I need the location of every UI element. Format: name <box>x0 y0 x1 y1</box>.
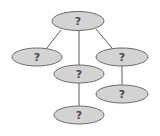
tree-node-middle-child: ? <box>54 106 104 124</box>
node-label: ? <box>75 15 81 28</box>
tree-node-root: ? <box>52 12 104 31</box>
tree-node-right-child: ? <box>96 85 148 103</box>
tree-diagram: ?????? <box>0 0 160 136</box>
node-label: ? <box>76 68 82 81</box>
nodes-group: ?????? <box>12 12 148 125</box>
edge-root-to-left <box>46 30 61 49</box>
tree-node-right: ? <box>96 48 148 66</box>
tree-node-middle: ? <box>54 65 104 83</box>
node-label: ? <box>34 51 40 64</box>
tree-node-left: ? <box>12 48 62 66</box>
node-label: ? <box>76 109 82 122</box>
node-label: ? <box>119 51 125 64</box>
edge-root-to-right <box>96 29 112 48</box>
node-label: ? <box>119 88 125 101</box>
